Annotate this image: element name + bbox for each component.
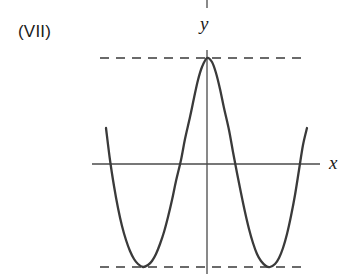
case-label: (VII) — [18, 22, 51, 42]
graph-plot — [0, 0, 353, 274]
x-axis-label: x — [329, 152, 337, 174]
figure-container: (VII) y x — [0, 0, 353, 274]
y-axis-label: y — [200, 13, 208, 35]
